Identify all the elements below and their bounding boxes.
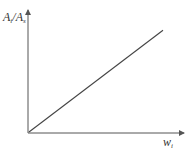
y-axis-label: Ai/As	[3, 11, 26, 25]
data-line	[29, 30, 163, 132]
x-axis-label: wi	[163, 136, 173, 150]
chart-canvas	[0, 0, 193, 155]
